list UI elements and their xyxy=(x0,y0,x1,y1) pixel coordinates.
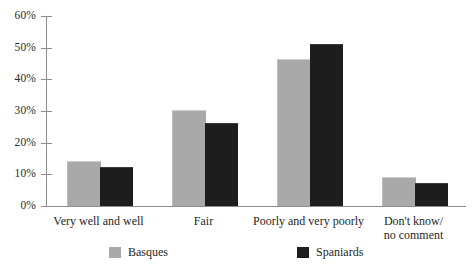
bar-basques-1 xyxy=(172,110,206,206)
y-axis-tick-label: 0% xyxy=(0,200,36,211)
bar-chart: 0%10%20%30%40%50%60% Very well and wellF… xyxy=(0,0,472,275)
category-label: Don't know/no comment xyxy=(347,214,472,242)
legend-item-basques[interactable]: Basques xyxy=(109,246,168,259)
bar-basques-3 xyxy=(382,177,416,207)
legend-label: Basques xyxy=(128,246,168,259)
y-axis-tick xyxy=(41,206,52,207)
bar-spaniards-3 xyxy=(415,183,448,206)
bar-spaniards-1 xyxy=(205,123,238,206)
chart-legend: BasquesSpaniards xyxy=(0,246,472,264)
legend-label: Spaniards xyxy=(316,246,363,259)
x-axis-line xyxy=(46,206,466,207)
y-axis-tick-label: 10% xyxy=(0,168,36,179)
category-label-line: Don't know/ xyxy=(347,214,472,228)
y-axis-tick-label: 40% xyxy=(0,73,36,84)
black-swatch-icon xyxy=(297,247,309,258)
gray-swatch-icon xyxy=(109,247,121,258)
y-axis-tick-label: 50% xyxy=(0,42,36,53)
y-axis-tick-label: 30% xyxy=(0,105,36,116)
legend-item-spaniards[interactable]: Spaniards xyxy=(297,246,363,259)
y-axis-tick-label: 20% xyxy=(0,137,36,148)
bar-spaniards-2 xyxy=(310,44,343,207)
category-label-line: no comment xyxy=(347,228,472,242)
bars-layer xyxy=(47,16,465,206)
y-axis-tick-label: 60% xyxy=(0,10,36,21)
bar-basques-0 xyxy=(67,161,101,206)
bar-spaniards-0 xyxy=(100,167,133,206)
bar-basques-2 xyxy=(277,59,311,206)
